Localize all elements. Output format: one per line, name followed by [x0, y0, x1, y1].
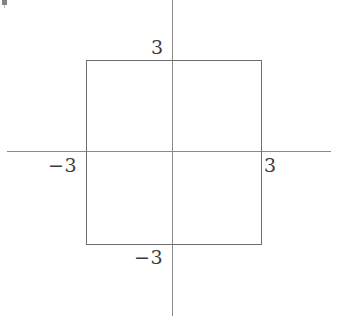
coordinate-plane-figure: 3 −3 3 −3 [0, 0, 338, 316]
scan-artifact-tail [4, 5, 5, 8]
tick-label-y-negative: −3 [134, 248, 163, 267]
tick-label-y-positive: 3 [151, 38, 164, 57]
tick-label-x-negative: −3 [48, 156, 77, 175]
square-shape [86, 60, 262, 245]
tick-label-x-positive: 3 [264, 156, 277, 175]
